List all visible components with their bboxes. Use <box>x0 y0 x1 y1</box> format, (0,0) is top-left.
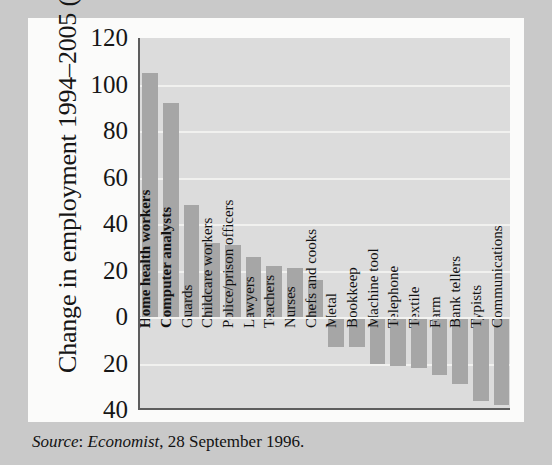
bar-label: Home health workers <box>138 190 154 328</box>
bar-label: Teachers <box>261 275 278 328</box>
bar-group[interactable]: Police/prison officers <box>223 38 244 408</box>
y-tick-label-120-0: 120 <box>91 24 129 52</box>
bar-group[interactable]: Textile <box>409 38 430 408</box>
bar-group[interactable]: Metal <box>326 38 347 408</box>
bar-label: Computer analysts <box>158 207 175 328</box>
bar-label: Farm <box>427 296 444 328</box>
bar-group[interactable]: Bookkeep <box>347 38 368 408</box>
bar-label: Typists <box>468 285 485 328</box>
y-tick-label-40-8: 40 <box>103 396 128 424</box>
y-tick-label-100-1: 100 <box>91 71 129 99</box>
source-caption: Source: Economist, 28 September 1996. <box>32 432 304 452</box>
bar-label: Guards <box>179 285 196 328</box>
bar-group[interactable]: Machine tool <box>367 38 388 408</box>
bar-label: Police/prison officers <box>220 200 237 328</box>
bar-label: Lawyers <box>241 276 258 328</box>
source-date: , 28 September 1996. <box>159 432 304 451</box>
bar-group[interactable]: Typists <box>471 38 492 408</box>
bar-group[interactable]: Farm <box>429 38 450 408</box>
bar-rect[interactable] <box>473 317 489 401</box>
y-tick-label-0-6: 0 <box>116 303 129 331</box>
bar-group[interactable]: Bank tellers <box>450 38 471 408</box>
source-colon: : <box>79 432 88 451</box>
y-axis-tick-labels: 1201008060402002040 <box>66 18 134 422</box>
bar-label: Textile <box>406 287 423 328</box>
y-tick-label-20-7: 20 <box>103 350 128 378</box>
source-publication: Economist <box>88 432 160 451</box>
figure-root: Change in employment 1994–2005 (%) 12010… <box>0 0 552 465</box>
y-tick-label-80-2: 80 <box>103 117 128 145</box>
source-label: Source <box>32 432 79 451</box>
bar-group[interactable]: Chefs and cooks <box>305 38 326 408</box>
bar-group[interactable]: Teachers <box>264 38 285 408</box>
bar-group[interactable]: Computer analysts <box>161 38 182 408</box>
plot-area: Home health workersComputer analystsGuar… <box>138 38 510 410</box>
bar-group[interactable]: Nurses <box>285 38 306 408</box>
figure-card: Change in employment 1994–2005 (%) 12010… <box>28 18 524 422</box>
y-tick-label-60-3: 60 <box>103 164 128 192</box>
bar-group[interactable]: Lawyers <box>243 38 264 408</box>
y-tick-label-20-5: 20 <box>103 257 128 285</box>
bars-layer: Home health workersComputer analystsGuar… <box>140 38 510 408</box>
zero-line <box>140 317 510 319</box>
bar-label: Chefs and cooks <box>303 229 320 328</box>
bar-label: Nurses <box>282 286 299 328</box>
bar-group[interactable]: Telephone <box>388 38 409 408</box>
bar-rect[interactable] <box>494 317 510 405</box>
bar-label: Childcare workers <box>199 218 216 328</box>
bar-label: Communications <box>489 226 506 329</box>
bar-label: Metal <box>323 293 340 328</box>
bar-group[interactable]: Communications <box>491 38 510 408</box>
y-tick-label-40-4: 40 <box>103 210 128 238</box>
